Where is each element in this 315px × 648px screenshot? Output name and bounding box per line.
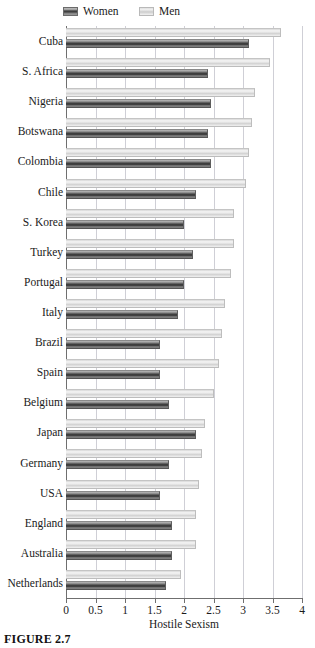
legend-swatch-men-icon — [139, 7, 154, 16]
legend-label-men: Men — [159, 6, 180, 17]
category-label: Turkey — [0, 246, 63, 258]
category-label: Italy — [0, 306, 63, 318]
bar-groups — [66, 26, 302, 598]
bar-men — [66, 389, 214, 398]
category-label: Netherlands — [0, 577, 63, 589]
category-label: Nigeria — [0, 95, 63, 107]
category-label: S. Korea — [0, 216, 63, 228]
bar-men — [66, 449, 202, 458]
bar-women — [66, 581, 166, 590]
category-label: Cuba — [0, 35, 63, 47]
bar-men — [66, 329, 222, 338]
category-label: England — [0, 517, 63, 529]
bar-group — [66, 297, 302, 327]
bar-group — [66, 177, 302, 207]
bar-group — [66, 357, 302, 387]
bar-group — [66, 508, 302, 538]
category-label: Chile — [0, 186, 63, 198]
axis-tick-label: 1 — [122, 604, 128, 617]
bar-men — [66, 510, 196, 519]
axis-tick-label: 2.5 — [206, 604, 220, 617]
axis-tick-label: 2 — [181, 604, 187, 617]
bar-group — [66, 568, 302, 598]
gridline-4 — [302, 26, 303, 598]
figure-caption: FIGURE 2.7 — [4, 632, 71, 646]
category-label: Australia — [0, 547, 63, 559]
category-label: Botswana — [0, 125, 63, 137]
axis-tick — [214, 598, 215, 603]
category-label: Belgium — [0, 396, 63, 408]
bar-women — [66, 159, 211, 168]
legend-label-women: Women — [83, 6, 118, 17]
bar-group — [66, 478, 302, 508]
axis-tick-label: 0 — [63, 604, 69, 617]
bar-group — [66, 447, 302, 477]
category-label: Portugal — [0, 276, 63, 288]
axis-tick — [125, 598, 126, 603]
category-axis-labels: CubaS. AfricaNigeriaBotswanaColombiaChil… — [0, 26, 63, 598]
bar-group — [66, 86, 302, 116]
axis-tick-label: 3.5 — [265, 604, 279, 617]
bar-women — [66, 370, 160, 379]
bar-women — [66, 400, 169, 409]
bar-men — [66, 58, 270, 67]
bar-men — [66, 28, 281, 37]
category-label: Germany — [0, 457, 63, 469]
chart-legend: Women Men — [0, 0, 315, 22]
legend-swatch-women-icon — [63, 7, 78, 16]
bar-women — [66, 280, 184, 289]
figure-container: Women Men CubaS. AfricaNigeriaBotswanaCo… — [0, 0, 315, 648]
bar-men — [66, 419, 205, 428]
value-axis-title: Hostile Sexism — [66, 618, 302, 631]
bar-group — [66, 207, 302, 237]
bar-men — [66, 359, 219, 368]
bar-women — [66, 521, 172, 530]
bar-group — [66, 26, 302, 56]
category-label: Colombia — [0, 155, 63, 167]
bar-men — [66, 540, 196, 549]
bar-women — [66, 310, 178, 319]
bar-group — [66, 417, 302, 447]
category-label: S. Africa — [0, 65, 63, 77]
bar-men — [66, 480, 199, 489]
bar-men — [66, 209, 234, 218]
bar-men — [66, 179, 246, 188]
category-label: Japan — [0, 426, 63, 438]
axis-tick — [243, 598, 244, 603]
plot-area — [66, 26, 302, 598]
axis-tick-label: 4 — [299, 604, 305, 617]
axis-tick — [273, 598, 274, 603]
axis-tick — [184, 598, 185, 603]
bar-men — [66, 269, 231, 278]
bar-women — [66, 491, 160, 500]
bar-women — [66, 430, 196, 439]
bar-women — [66, 340, 160, 349]
bar-women — [66, 129, 208, 138]
legend-item-women: Women — [63, 0, 118, 22]
bar-men — [66, 570, 181, 579]
bar-men — [66, 118, 252, 127]
bar-women — [66, 460, 169, 469]
bar-women — [66, 190, 196, 199]
axis-tick — [66, 598, 67, 603]
axis-tick-label: 3 — [240, 604, 246, 617]
bar-group — [66, 387, 302, 417]
axis-tick — [96, 598, 97, 603]
bar-men — [66, 88, 255, 97]
bar-group — [66, 327, 302, 357]
bar-women — [66, 99, 211, 108]
bar-men — [66, 148, 249, 157]
bar-women — [66, 69, 208, 78]
bar-group — [66, 237, 302, 267]
axis-tick — [302, 598, 303, 603]
bar-women — [66, 250, 193, 259]
legend-item-men: Men — [139, 0, 180, 22]
bar-men — [66, 299, 225, 308]
axis-tick — [155, 598, 156, 603]
bar-women — [66, 39, 249, 48]
category-label: Spain — [0, 366, 63, 378]
bar-women — [66, 551, 172, 560]
category-label: USA — [0, 487, 63, 499]
bar-group — [66, 538, 302, 568]
axis-tick-label: 1.5 — [147, 604, 161, 617]
